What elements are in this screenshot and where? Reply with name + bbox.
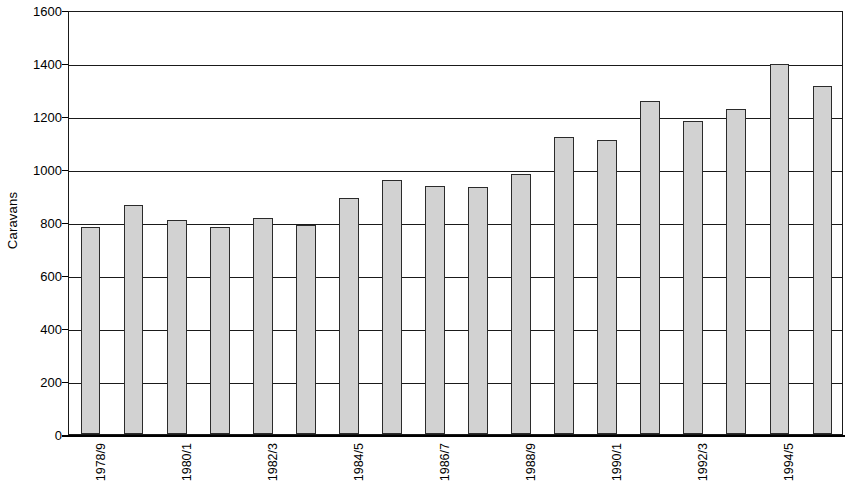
x-axis-tick-label: 1982/3 <box>267 443 280 481</box>
x-axis-tick-label: 1992/3 <box>697 443 710 481</box>
y-axis-tick-label: 400 <box>40 323 62 336</box>
x-axis-tick-label: 1994/5 <box>783 443 796 481</box>
bar <box>253 218 273 434</box>
bar <box>726 109 746 434</box>
y-axis-tick-label: 1600 <box>33 5 62 18</box>
x-axis-tick-label: 1984/5 <box>353 443 366 481</box>
bars-series <box>69 12 842 434</box>
bar <box>511 174 531 434</box>
bar <box>296 225 316 434</box>
y-axis-tick-label: 0 <box>55 429 62 442</box>
y-axis-tick-labels: 02004006008001000120014001600 <box>26 0 62 440</box>
plot-area <box>68 11 843 435</box>
bar <box>640 101 660 434</box>
x-axis-tick-label: 1988/9 <box>525 443 538 481</box>
y-axis-tick-label: 1200 <box>33 111 62 124</box>
bar <box>425 186 445 434</box>
x-axis-tick-label: 1980/1 <box>181 443 194 481</box>
x-axis-tick-label: 1978/9 <box>95 443 108 481</box>
bar <box>813 86 833 434</box>
y-axis-tick-label: 600 <box>40 270 62 283</box>
x-axis-tick-labels: 1978/91980/11982/31984/51986/71988/91990… <box>68 437 843 501</box>
y-axis-tick-label: 800 <box>40 217 62 230</box>
bar <box>597 140 617 434</box>
bar <box>683 121 703 434</box>
bar <box>167 220 187 434</box>
x-axis-tick-label: 1986/7 <box>439 443 452 481</box>
x-axis-tick-label: 1990/1 <box>611 443 624 481</box>
bar <box>124 205 144 434</box>
bar <box>81 227 101 434</box>
bar <box>210 227 230 434</box>
bar <box>382 180 402 434</box>
y-axis-title: Caravans <box>0 0 26 440</box>
bar <box>554 137 574 434</box>
y-axis-tick-label: 200 <box>40 376 62 389</box>
y-axis-tick-label: 1400 <box>33 58 62 71</box>
y-axis-title-text: Caravans <box>6 191 21 248</box>
bar <box>339 198 359 434</box>
bar <box>468 187 488 434</box>
y-axis-tick-label: 1000 <box>33 164 62 177</box>
bar <box>770 64 790 434</box>
bar-chart: Caravans 02004006008001000120014001600 1… <box>0 0 849 501</box>
